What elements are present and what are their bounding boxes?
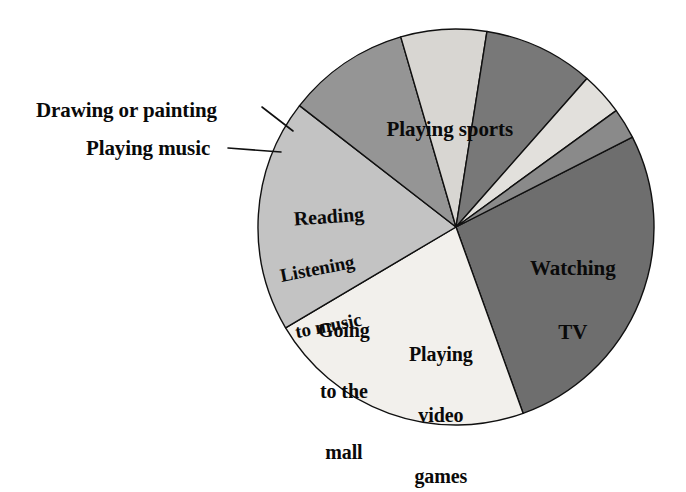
slice-label-playing-music-text: Playing music	[86, 136, 210, 160]
slice-label-mall-line3: mall	[318, 442, 370, 462]
slice-label-mall-line2: to the	[318, 381, 370, 401]
slice-label-listening-line2: to music	[289, 309, 366, 342]
slice-label-listening-line1: Listening	[278, 252, 355, 285]
slice-label-playing-sports-text: Playing sports	[387, 117, 513, 141]
slice-label-reading: Reading	[272, 184, 366, 251]
slice-label-playing-video-games: Playing video games	[409, 303, 473, 492]
leader-line-drawing-or-painting	[262, 107, 293, 131]
slice-label-video-games-line2: video	[409, 405, 473, 425]
slice-label-drawing-or-painting-text: Drawing or painting	[36, 98, 217, 122]
slice-label-watching-tv: Watching TV	[530, 215, 616, 386]
slice-label-watching-tv-line2: TV	[530, 322, 616, 343]
slice-label-video-games-line1: Playing	[409, 344, 473, 364]
slice-label-reading-text: Reading	[293, 203, 365, 230]
slice-label-playing-sports: Playing sports	[366, 98, 513, 162]
slice-label-drawing-or-painting: Drawing or painting	[36, 100, 217, 121]
slice-label-video-games-line3: games	[409, 466, 473, 486]
slice-label-watching-tv-line1: Watching	[530, 258, 616, 279]
slice-label-playing-music: Playing music	[86, 138, 210, 159]
